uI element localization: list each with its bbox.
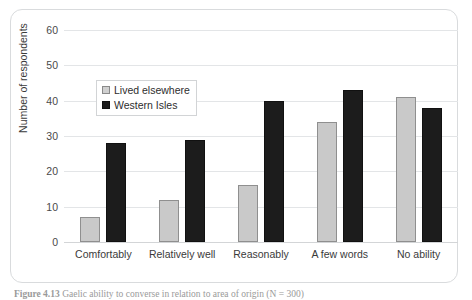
bars-layer (64, 30, 458, 242)
x-tick-label: Comfortably (66, 248, 141, 260)
legend-item-lived-elsewhere[interactable]: Lived elsewhere (102, 84, 190, 96)
figure-caption-text: Gaelic ability to converse in relation t… (62, 289, 304, 299)
bar-lived-elsewhere[interactable] (159, 200, 179, 242)
legend-label: Lived elsewhere (114, 84, 190, 96)
bar-western-isles[interactable] (106, 143, 126, 242)
y-axis-title: Number of respondents (17, 3, 29, 153)
bar-group (302, 30, 377, 242)
y-tick-label: 60 (32, 25, 58, 35)
legend-swatch-icon (102, 86, 110, 94)
bar-group (381, 30, 456, 242)
bar-western-isles[interactable] (264, 101, 284, 242)
y-axis-tick-labels: 60 50 40 30 20 10 0 (30, 30, 58, 242)
bar-group (145, 30, 220, 242)
x-tick-label: No ability (381, 248, 456, 260)
figure-caption-label: Figure 4.13 (14, 289, 60, 299)
bar-lived-elsewhere[interactable] (238, 185, 258, 242)
chart-legend[interactable]: Lived elsewhere Western Isles (96, 80, 197, 116)
bar-group (224, 30, 299, 242)
y-tick-label: 10 (32, 202, 58, 212)
y-tick-label: 40 (32, 96, 58, 106)
bar-lived-elsewhere[interactable] (396, 97, 416, 242)
x-tick-label: A few words (302, 248, 377, 260)
figure-caption: Figure 4.13 Gaelic ability to converse i… (14, 289, 466, 300)
gridline-baseline (64, 242, 458, 243)
bar-lived-elsewhere[interactable] (80, 217, 100, 242)
bar-western-isles[interactable] (422, 108, 442, 242)
legend-label: Western Isles (114, 99, 177, 111)
x-axis-tick-labels: Comfortably Relatively well Reasonably A… (64, 248, 458, 260)
bar-western-isles[interactable] (185, 140, 205, 242)
y-tick-label: 0 (32, 237, 58, 247)
legend-swatch-icon (102, 101, 110, 109)
bar-western-isles[interactable] (343, 90, 363, 242)
y-tick-label: 20 (32, 166, 58, 176)
y-tick-label: 30 (32, 131, 58, 141)
bar-group (66, 30, 141, 242)
bar-lived-elsewhere[interactable] (317, 122, 337, 242)
x-tick-label: Relatively well (145, 248, 220, 260)
plot-area (64, 30, 458, 242)
x-tick-label: Reasonably (224, 248, 299, 260)
legend-item-western-isles[interactable]: Western Isles (102, 99, 190, 111)
y-tick-label: 50 (32, 60, 58, 70)
